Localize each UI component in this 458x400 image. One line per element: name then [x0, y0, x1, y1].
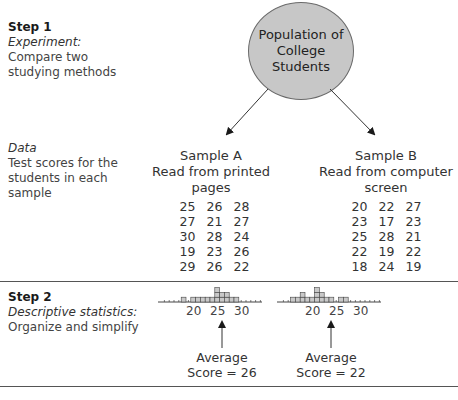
average-arrows [0, 0, 458, 400]
avg-label: Average [291, 350, 371, 365]
avg-label: Average [182, 350, 262, 365]
divider-2 [0, 386, 458, 387]
sample-b-average: Average Score = 22 [291, 350, 371, 380]
avg-value: Score = 26 [182, 365, 262, 380]
avg-value: Score = 22 [291, 365, 371, 380]
sample-a-average: Average Score = 26 [182, 350, 262, 380]
